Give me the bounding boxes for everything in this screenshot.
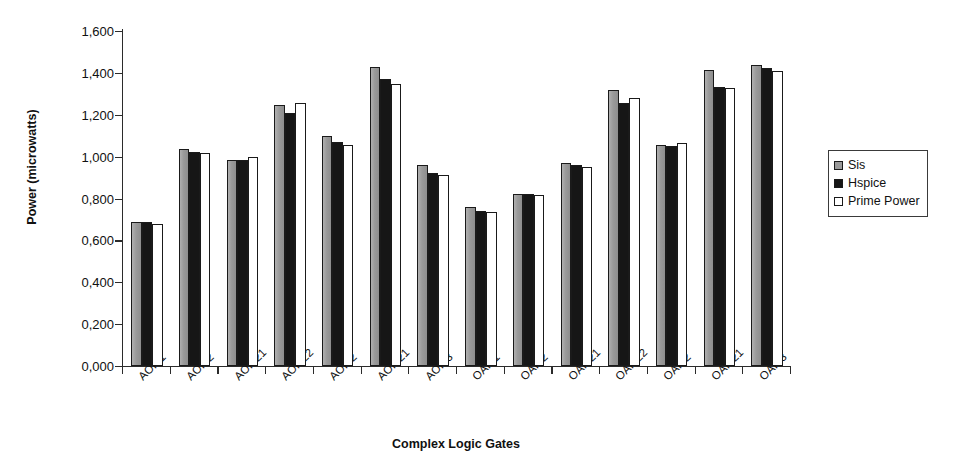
- bar-group: [122, 31, 170, 366]
- y-axis-tick-mark: [115, 73, 122, 74]
- bar-OAI21-sis: [465, 207, 476, 366]
- y-axis-tick-label: 1,000: [62, 150, 114, 163]
- legend-item-hspice[interactable]: Hspice: [834, 174, 920, 192]
- x-axis-tick-mark: [504, 367, 505, 374]
- bar-group: [504, 31, 552, 366]
- bar-AOI321-sis: [370, 67, 381, 366]
- bar-OAI33-prime-power: [772, 71, 783, 366]
- bar-chart: Power (microwatts) 1,6001,4001,2001,0000…: [0, 0, 953, 472]
- bar-OAI222-prime-power: [629, 98, 640, 366]
- x-axis-tick-mark: [313, 367, 314, 374]
- bar-AOI221-sis: [227, 160, 238, 366]
- bar-group: [265, 31, 313, 366]
- bar-OAI32-prime-power: [677, 143, 688, 366]
- bar-OAI222-hspice: [619, 103, 630, 366]
- legend-label: Prime Power: [848, 195, 920, 208]
- x-axis-tick-mark: [170, 367, 171, 374]
- y-axis-tick-mark: [115, 240, 122, 241]
- y-axis-tick-label: 1,400: [62, 66, 114, 79]
- bar-AOI321-prime-power: [391, 84, 402, 366]
- bar-AOI221-prime-power: [248, 157, 259, 366]
- bar-group: [551, 31, 599, 366]
- legend-swatch-icon: [834, 161, 843, 170]
- y-axis-tick-mark: [115, 366, 122, 367]
- x-axis-tick-mark: [217, 367, 218, 374]
- bar-group: [695, 31, 743, 366]
- bar-group: [742, 31, 790, 366]
- bar-OAI321-sis: [704, 70, 715, 366]
- bar-group: [313, 31, 361, 366]
- y-axis-tick-mark: [115, 31, 122, 32]
- bar-AOI32-prime-power: [343, 145, 354, 366]
- bar-OAI21-prime-power: [486, 212, 497, 366]
- bar-OAI221-prime-power: [582, 167, 593, 366]
- bar-OAI222-sis: [608, 90, 619, 366]
- bar-AOI222-prime-power: [295, 103, 306, 366]
- bar-AOI222-sis: [274, 105, 285, 366]
- bar-group: [217, 31, 265, 366]
- y-axis-tick-mark: [115, 199, 122, 200]
- y-axis-tick-label: 0,800: [62, 192, 114, 205]
- bar-AOI321-hspice: [380, 79, 391, 366]
- bar-group: [408, 31, 456, 366]
- x-axis-tick-mark: [122, 367, 123, 374]
- bar-OAI32-sis: [656, 145, 667, 366]
- legend-label: Hspice: [848, 177, 886, 190]
- x-axis-tick-mark: [361, 367, 362, 374]
- bar-OAI321-hspice: [714, 87, 725, 366]
- x-axis-tick-mark: [551, 367, 552, 374]
- x-axis-tick-mark: [265, 367, 266, 374]
- y-axis-tick-label: 0,400: [62, 276, 114, 289]
- y-axis-tick-mark: [115, 115, 122, 116]
- plot-area: [122, 31, 790, 366]
- bar-AOI21-prime-power: [152, 224, 163, 366]
- bar-OAI32-hspice: [666, 146, 677, 366]
- legend-swatch-icon: [834, 197, 843, 206]
- y-axis-title: Power (microwatts): [25, 77, 39, 257]
- bar-OAI321-prime-power: [725, 88, 736, 366]
- y-axis-tick-label: 0,000: [62, 360, 114, 373]
- bar-OAI22-prime-power: [534, 195, 545, 366]
- bar-AOI21-hspice: [142, 222, 153, 366]
- bar-AOI33-sis: [417, 165, 428, 366]
- bar-OAI221-sis: [561, 163, 572, 366]
- bar-AOI33-hspice: [428, 173, 439, 366]
- legend-item-prime-power[interactable]: Prime Power: [834, 192, 920, 210]
- bar-AOI32-sis: [322, 136, 333, 366]
- legend-item-sis[interactable]: Sis: [834, 156, 920, 174]
- bar-OAI21-hspice: [476, 211, 487, 366]
- x-axis-tick-mark: [408, 367, 409, 374]
- bar-AOI22-sis: [179, 149, 190, 366]
- x-axis-tick-mark: [742, 367, 743, 374]
- bar-AOI221-hspice: [237, 160, 248, 366]
- chart-legend: SisHspicePrime Power: [828, 150, 928, 217]
- y-axis-tick-mark: [115, 282, 122, 283]
- y-axis-tick-label: 1,600: [62, 25, 114, 38]
- x-axis-tick-mark: [695, 367, 696, 374]
- y-axis-tick-label: 0,200: [62, 318, 114, 331]
- bar-OAI33-sis: [751, 65, 762, 367]
- bar-group: [599, 31, 647, 366]
- bar-OAI22-sis: [513, 194, 524, 366]
- bar-group: [170, 31, 218, 366]
- x-axis-tick-mark: [790, 367, 791, 374]
- y-axis-tick-label: 1,200: [62, 108, 114, 121]
- bar-AOI22-hspice: [189, 152, 200, 366]
- bar-AOI22-prime-power: [200, 153, 211, 366]
- bar-AOI33-prime-power: [438, 175, 449, 366]
- bar-OAI22-hspice: [523, 194, 534, 366]
- bar-group: [361, 31, 409, 366]
- y-axis-tick-label: 0,600: [62, 234, 114, 247]
- bar-AOI32-hspice: [332, 142, 343, 366]
- x-axis-tick-mark: [647, 367, 648, 374]
- x-axis-title: Complex Logic Gates: [122, 437, 790, 451]
- x-axis-tick-mark: [599, 367, 600, 374]
- legend-swatch-icon: [834, 179, 843, 188]
- bar-AOI21-sis: [131, 222, 142, 366]
- bar-OAI33-hspice: [762, 68, 773, 366]
- bar-group: [456, 31, 504, 366]
- bar-group: [647, 31, 695, 366]
- y-axis-tick-mark: [115, 157, 122, 158]
- legend-label: Sis: [848, 159, 865, 172]
- x-axis-tick-mark: [456, 367, 457, 374]
